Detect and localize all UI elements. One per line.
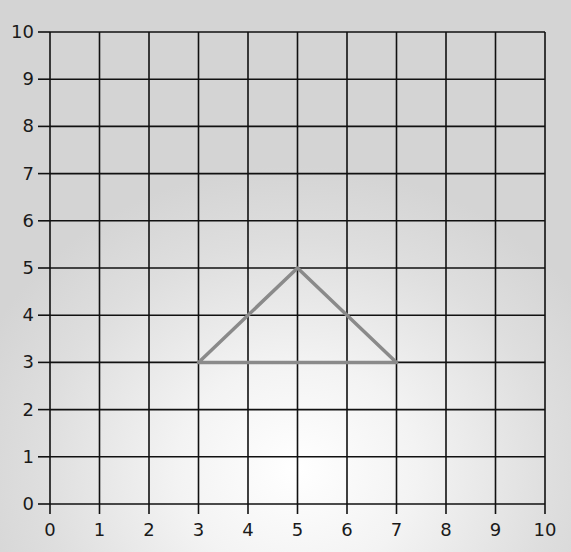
y-tick-label: 7: [23, 163, 34, 184]
y-axis-labels: 012345678910: [11, 21, 34, 514]
coordinate-grid-diagram: 012345678910 012345678910: [0, 0, 571, 552]
x-tick-label: 4: [242, 519, 253, 540]
x-tick-label: 9: [490, 519, 501, 540]
x-tick-label: 10: [534, 519, 557, 540]
x-tick-label: 5: [292, 519, 303, 540]
y-tick-label: 1: [23, 446, 34, 467]
y-tick-label: 5: [23, 257, 34, 278]
x-tick-label: 8: [440, 519, 451, 540]
x-axis-labels: 012345678910: [44, 519, 556, 540]
y-tick-label: 8: [23, 115, 34, 136]
y-tick-label: 0: [23, 493, 34, 514]
y-tick-label: 10: [11, 21, 34, 42]
x-tick-label: 7: [391, 519, 402, 540]
x-tick-label: 3: [193, 519, 204, 540]
x-tick-label: 6: [341, 519, 352, 540]
grid-svg: 012345678910 012345678910: [0, 0, 571, 552]
y-tick-label: 4: [23, 304, 34, 325]
y-tick-label: 9: [23, 68, 34, 89]
x-tick-label: 2: [143, 519, 154, 540]
y-tick-label: 6: [23, 210, 34, 231]
y-tick-label: 2: [23, 399, 34, 420]
x-tick-label: 1: [94, 519, 105, 540]
x-tick-label: 0: [44, 519, 55, 540]
y-tick-label: 3: [23, 351, 34, 372]
